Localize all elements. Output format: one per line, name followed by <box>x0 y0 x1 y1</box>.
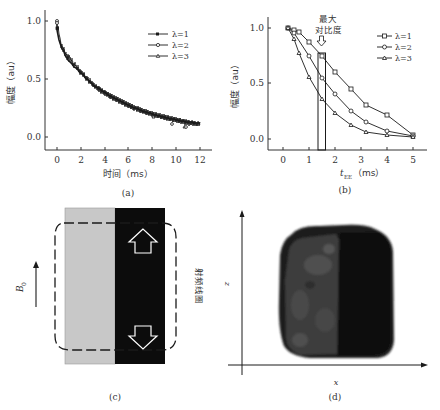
b-xtick: 1 <box>306 155 312 165</box>
b-legend: λ=1 λ=2 λ=3 <box>377 32 412 63</box>
a-legend-3: λ=3 <box>172 52 189 61</box>
caption-d: (d) <box>329 392 342 402</box>
b-legend-3: λ=3 <box>395 54 412 63</box>
a-xtick: 12 <box>194 155 205 165</box>
b-xtick: 0 <box>280 155 286 165</box>
d-z-arrow-icon <box>240 210 245 217</box>
a-legend-1: λ=1 <box>172 30 189 39</box>
b-ytick-0: 0.0 <box>250 134 265 144</box>
annotation-line1: 最大 <box>319 14 337 24</box>
a-y-label: 幅度（au） <box>5 56 16 103</box>
b-y-label: 幅度（au） <box>229 60 240 107</box>
d-x-label: x <box>334 378 339 387</box>
b-xtick: 3 <box>358 155 364 165</box>
panel-a-chart: 1.0 0.5 0.0 0 2 4 6 8 10 12 时间（ms） 幅度（au… <box>5 10 212 198</box>
light-phantom <box>65 208 115 364</box>
b0-arrow-head-icon <box>33 261 39 268</box>
b-ytick-1: 1.0 <box>250 23 265 33</box>
b-x-label-sub: EE <box>344 174 352 180</box>
b0-label-sub: 0 <box>20 282 27 286</box>
a-markers <box>56 20 188 129</box>
b-xtick: 4 <box>384 155 390 165</box>
a-xtick: 0 <box>54 155 60 165</box>
a-xtick: 2 <box>78 155 84 165</box>
a-xtick: 4 <box>102 155 108 165</box>
a-xtick: 8 <box>149 155 155 165</box>
d-x-arrow-icon <box>421 363 428 368</box>
rf-coil-label: 射频线圈 <box>194 268 204 304</box>
caption-b: (b) <box>339 185 352 195</box>
annotation-line2: 对比度 <box>315 25 342 35</box>
a-ytick-1: 1.0 <box>27 16 42 26</box>
b-x-label-unit: （ms） <box>353 168 384 178</box>
panel-d-image: x z (d) <box>222 210 428 402</box>
a-legend-2: λ=2 <box>172 41 189 50</box>
b-xtick: 5 <box>410 155 416 165</box>
a-xtick: 10 <box>170 155 182 165</box>
b-xtick: 2 <box>332 155 338 165</box>
d-z-label: z <box>222 281 231 287</box>
a-ytick-0: 0.0 <box>27 132 42 142</box>
a-x-label: 时间（ms） <box>103 168 152 179</box>
caption-a: (a) <box>122 188 134 198</box>
b-legend-2: λ=2 <box>395 43 412 52</box>
mri-image <box>279 225 394 358</box>
b-legend-1: λ=1 <box>395 32 412 41</box>
panel-c-diagram: B 0 射频线圈 (c) <box>15 208 204 402</box>
a-ytick-05: 0.5 <box>27 74 42 84</box>
down-arrow-icon <box>317 36 326 46</box>
a-xtick: 6 <box>125 155 131 165</box>
caption-c: (c) <box>109 392 121 402</box>
b-ytick-05: 0.5 <box>250 78 265 88</box>
a-legend: λ=1 λ=2 λ=3 <box>148 30 189 61</box>
panel-b-chart: 1.0 0.5 0.0 0 1 2 3 4 5 t EE （ms） 幅度（au）… <box>229 14 427 195</box>
